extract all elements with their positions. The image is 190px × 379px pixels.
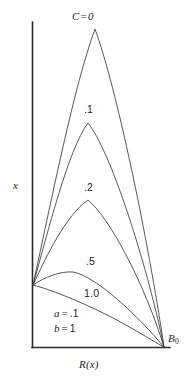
x-axis-label: R(x): [79, 359, 99, 370]
parameter-a-equals: =: [60, 307, 70, 319]
curve-c-0: [33, 29, 164, 347]
curve-c-0p1: [33, 123, 164, 347]
parameter-b-symbol: b: [54, 322, 60, 334]
parameter-row-b: b=1: [54, 321, 78, 336]
parameter-b-value: 1: [70, 322, 76, 334]
endpoint-label-b0: B0: [168, 333, 179, 344]
parameter-a-symbol: a: [54, 307, 60, 319]
curve-label-0p5: .5: [86, 256, 95, 267]
curve-label-c-eq: =: [80, 10, 88, 22]
endpoint-label-subscript: 0: [175, 337, 179, 346]
plot-canvas: [0, 0, 190, 379]
curve-label-c-symbol: C: [72, 10, 80, 22]
curve-label-c-value: 0: [88, 10, 94, 22]
figure-container: C=0 .1 .2 .5 1.0 a=.1 b=1 B0 x R(x): [0, 0, 190, 379]
curve-label-1p0: 1.0: [84, 288, 99, 299]
parameter-b-equals: =: [60, 322, 70, 334]
parameter-row-a: a=.1: [54, 306, 78, 321]
curve-label-c-equals-zero: C=0: [72, 11, 94, 22]
parameter-annotation-block: a=.1 b=1: [54, 306, 78, 336]
axes-group: [32, 22, 170, 348]
parameter-a-value: .1: [70, 307, 79, 319]
curve-label-0p2: .2: [84, 182, 93, 193]
endpoint-label-base: B: [168, 332, 175, 344]
curve-label-0p1: .1: [84, 104, 93, 115]
curves-group: [33, 29, 164, 347]
y-axis-label: x: [13, 180, 18, 191]
